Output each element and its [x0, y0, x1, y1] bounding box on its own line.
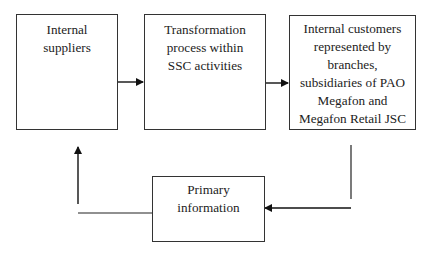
node-primary-information: Primary information: [152, 176, 265, 242]
node-internal-customers: Internal customers represented by branch…: [289, 15, 416, 130]
node-internal-suppliers: Internal suppliers: [16, 14, 118, 130]
arrow-customers-to-primary-information: [265, 145, 351, 208]
node-label: Primary information: [153, 177, 264, 217]
node-label: Internal customers represented by branch…: [290, 16, 415, 128]
node-label: Transformation process within SSC activi…: [145, 15, 265, 75]
arrow-primary-information-to-suppliers: [78, 147, 152, 213]
node-label: Internal suppliers: [17, 15, 117, 57]
node-transformation-process: Transformation process within SSC activi…: [144, 14, 266, 130]
